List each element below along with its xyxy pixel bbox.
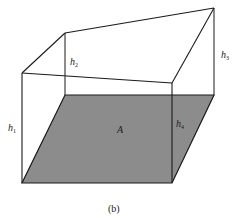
figure-caption: (b): [108, 203, 120, 215]
top-edge-front: [22, 73, 172, 83]
top-edge-left: [22, 33, 65, 73]
base-region-a: [22, 95, 214, 183]
label-h1: h1: [8, 122, 16, 134]
label-h3: h3: [221, 49, 229, 61]
label-h2: h2: [70, 56, 78, 68]
top-edge-back: [65, 8, 214, 33]
top-edge-right: [172, 8, 214, 83]
prism-diagram: h1 h2 h3 h4 A (b): [0, 0, 234, 218]
label-area-a: A: [116, 124, 124, 135]
